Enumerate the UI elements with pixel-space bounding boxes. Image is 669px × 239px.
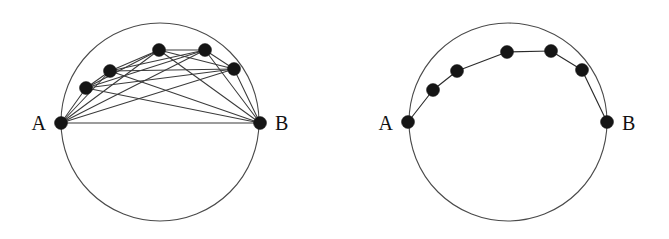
vertex-label-b: B xyxy=(622,112,635,134)
panels-group: ABAB xyxy=(32,23,636,221)
graph-node-A[interactable] xyxy=(55,117,68,130)
graph-node[interactable] xyxy=(228,63,241,76)
figure-root: ABAB xyxy=(0,0,669,239)
graph-edge xyxy=(86,50,159,88)
figure-canvas: ABAB xyxy=(0,0,669,239)
vertex-label-a: A xyxy=(32,112,47,134)
graph-edge xyxy=(110,69,234,71)
graph-edge xyxy=(61,50,159,123)
graph-node[interactable] xyxy=(427,84,440,97)
graph-node[interactable] xyxy=(545,45,558,58)
graph-node[interactable] xyxy=(451,65,464,78)
graph-node-A[interactable] xyxy=(402,116,415,129)
graph-edge xyxy=(159,50,260,123)
graph-node[interactable] xyxy=(104,65,117,78)
graph-node[interactable] xyxy=(153,44,166,57)
graph-node-B[interactable] xyxy=(254,117,267,130)
graph-node[interactable] xyxy=(501,46,514,59)
path-graph-panel: AB xyxy=(379,23,636,221)
graph-node[interactable] xyxy=(576,64,589,77)
graph-node[interactable] xyxy=(80,82,93,95)
complete-graph-panel: AB xyxy=(32,23,289,221)
vertex-label-a: A xyxy=(379,112,394,134)
graph-node-B[interactable] xyxy=(601,116,614,129)
graph-edge xyxy=(205,50,260,123)
vertex-label-b: B xyxy=(275,112,288,134)
graph-node[interactable] xyxy=(199,44,212,57)
graph-edge xyxy=(457,52,507,71)
